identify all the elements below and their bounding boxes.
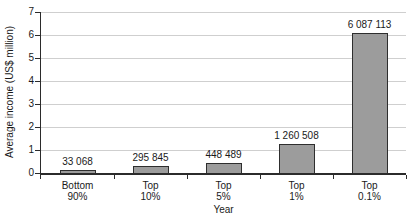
x-tick-mark-3 xyxy=(260,175,261,179)
category-label-line2-0: 90% xyxy=(41,191,114,202)
y-tick-label-1: 1 xyxy=(8,144,34,156)
value-label-3: 1 260 508 xyxy=(274,130,319,141)
category-label-line2-1: 10% xyxy=(114,191,187,202)
category-label-line1-4: Top xyxy=(333,180,406,191)
y-tick-mark-7 xyxy=(35,12,40,13)
y-tick-label-7: 7 xyxy=(8,6,34,18)
value-label-1: 295 845 xyxy=(132,152,168,163)
y-tick-label-6: 6 xyxy=(8,29,34,41)
y-tick-mark-6 xyxy=(35,35,40,36)
category-label-line2-3: 1% xyxy=(260,191,333,202)
bar-top-10- xyxy=(133,166,169,173)
bar-top-5- xyxy=(206,163,242,173)
category-label-line1-0: Bottom xyxy=(41,180,114,191)
category-label-line1-2: Top xyxy=(187,180,260,191)
value-label-4: 6 087 113 xyxy=(348,19,392,30)
bar-top-1- xyxy=(279,144,315,173)
gridline-y-7 xyxy=(41,12,406,13)
category-label-1: Top10% xyxy=(114,180,187,202)
y-tick-label-3: 3 xyxy=(8,98,34,110)
y-tick-mark-3 xyxy=(35,104,40,105)
y-tick-mark-2 xyxy=(35,127,40,128)
y-tick-label-2: 2 xyxy=(8,121,34,133)
y-tick-mark-0 xyxy=(35,173,40,174)
y-tick-mark-4 xyxy=(35,81,40,82)
y-tick-label-0: 0 xyxy=(8,167,34,179)
plot-area: 33 068295 845448 4891 260 5086 087 113 xyxy=(40,12,406,175)
category-label-line1-3: Top xyxy=(260,180,333,191)
value-label-2: 448 489 xyxy=(205,149,241,160)
category-label-0: Bottom90% xyxy=(41,180,114,202)
y-tick-label-4: 4 xyxy=(8,75,34,87)
bar-top-0-1- xyxy=(352,33,388,173)
x-tick-mark-1 xyxy=(114,175,115,179)
bar-bottom-90- xyxy=(60,170,96,173)
category-label-3: Top1% xyxy=(260,180,333,202)
value-label-0: 33 068 xyxy=(62,156,93,167)
category-label-line2-4: 0.1% xyxy=(333,191,406,202)
x-tick-mark-4 xyxy=(333,175,334,179)
x-tick-mark-0 xyxy=(40,175,41,179)
x-axis-title: Year xyxy=(41,204,406,215)
bar-chart: Average income (US$ million) 33 068295 8… xyxy=(0,0,408,220)
x-tick-mark-5 xyxy=(406,175,407,179)
category-label-4: Top0.1% xyxy=(333,180,406,202)
y-tick-mark-5 xyxy=(35,58,40,59)
category-label-2: Top5% xyxy=(187,180,260,202)
category-label-line1-1: Top xyxy=(114,180,187,191)
y-tick-mark-1 xyxy=(35,150,40,151)
x-tick-mark-2 xyxy=(187,175,188,179)
y-tick-label-5: 5 xyxy=(8,52,34,64)
category-label-line2-2: 5% xyxy=(187,191,260,202)
